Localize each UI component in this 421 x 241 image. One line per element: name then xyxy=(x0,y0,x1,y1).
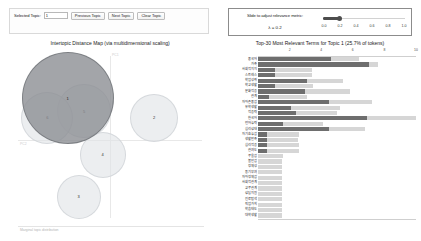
topic-bubble-label: 2 xyxy=(153,115,155,120)
intertopic-distance-map[interactable]: PC1 PC2 Marginal topic distribution 1562… xyxy=(12,50,208,234)
overall-frequency-bar xyxy=(258,192,282,196)
selected-topic-input[interactable] xyxy=(44,12,68,19)
overall-frequency-bar xyxy=(258,165,282,169)
lambda-tick-0-8: 0.8 xyxy=(386,24,391,28)
bar-chart-rows: 중국어가족사회적지지스트레스학업성취학교생활문화적응관계자아존중감유학생활적응력… xyxy=(218,57,418,219)
term-label: 스트레스 xyxy=(245,73,257,78)
topic-frequency-bar xyxy=(258,95,269,99)
overall-frequency-bar xyxy=(258,170,282,174)
term-row[interactable]: 대학생활 xyxy=(218,213,418,218)
overall-frequency-bar xyxy=(258,208,282,212)
next-topic-button[interactable]: Next Topic xyxy=(108,12,135,20)
bar-chart-tick-6: 6 xyxy=(352,48,354,52)
bar-chart-bottom-line xyxy=(258,219,416,220)
topic-frequency-bar xyxy=(258,143,267,147)
lambda-value-label: λ = 0.2 xyxy=(233,25,317,30)
topic-bubble-label: 3 xyxy=(78,194,80,199)
lambda-slider[interactable]: 0.00.20.40.60.81.0 xyxy=(321,15,407,33)
topic-frequency-bar xyxy=(258,132,267,136)
lambda-tick-0-6: 0.6 xyxy=(370,24,375,28)
lambda-tick-1-0: 1.0 xyxy=(402,24,407,28)
topic-frequency-bar xyxy=(258,122,283,126)
bar-chart-tick-10: 10 xyxy=(414,48,418,52)
term-label: 적응력 xyxy=(248,110,257,115)
term-label: 사회적관계 xyxy=(242,180,257,185)
overall-frequency-bar xyxy=(258,181,282,185)
topic-frequency-bar xyxy=(258,149,267,153)
topic-frequency-bar xyxy=(258,111,296,115)
overall-frequency-bar xyxy=(258,197,282,201)
lambda-tick-0-4: 0.4 xyxy=(354,24,359,28)
topic-frequency-bar xyxy=(258,89,305,93)
term-label: 중국어 xyxy=(248,57,257,62)
bar-chart-tick-4: 4 xyxy=(320,48,322,52)
overall-frequency-bar xyxy=(258,176,282,180)
relevance-metric-panel: Slide to adjust relevance metric: λ = 0.… xyxy=(228,8,412,36)
lambda-tick-0-0: 0.0 xyxy=(322,24,327,28)
topic-frequency-bar xyxy=(258,100,329,104)
term-label: 생활만족 xyxy=(245,137,257,142)
term-label: 진로탐색 xyxy=(245,197,257,202)
top-terms-title: Top-30 Most Relevant Terms for Topic 1 (… xyxy=(222,40,418,46)
topic-frequency-bar xyxy=(258,68,275,72)
term-label: 심리상태 xyxy=(245,127,257,132)
topic-bubble-label: 1 xyxy=(67,96,69,101)
term-label: 관계 xyxy=(251,94,257,99)
relevance-metric-text: Slide to adjust relevance metric: λ = 0.… xyxy=(233,13,317,30)
overall-frequency-bar xyxy=(258,186,282,190)
topic-frequency-bar xyxy=(258,62,369,66)
topic-frequency-bar xyxy=(258,84,275,88)
overall-frequency-bar xyxy=(258,159,282,163)
lambda-slider-handle[interactable] xyxy=(337,16,342,21)
topic-frequency-bar xyxy=(258,73,275,77)
marginal-topic-distribution-label: Marginal topic distribution xyxy=(20,228,58,232)
previous-topic-button[interactable]: Previous Topic xyxy=(71,12,105,20)
lambda-tick-0-2: 0.2 xyxy=(338,24,343,28)
term-label: 상담지원 xyxy=(245,191,257,196)
bar-chart-tick-2: 2 xyxy=(289,48,291,52)
map-legend-divider xyxy=(18,226,204,227)
topic-control-bar: Selected Topic: Previous Topic Next Topi… xyxy=(9,8,209,34)
term-label: 대학생활 xyxy=(245,213,257,218)
term-label: 자아존중감 xyxy=(242,100,257,105)
overall-frequency-bar xyxy=(258,213,282,217)
term-label: 우울감 xyxy=(248,154,257,159)
bar-chart-tick-8: 8 xyxy=(383,48,385,52)
overall-frequency-bar xyxy=(258,203,282,207)
topic-bubble-label: 4 xyxy=(102,152,104,157)
pc2-axis-label: PC2 xyxy=(20,142,27,146)
topic-bubble-3[interactable]: 3 xyxy=(57,175,101,219)
term-label: 정체성 xyxy=(248,164,257,169)
clear-topic-button[interactable]: Clear Topic xyxy=(137,12,165,20)
topic-frequency-bar xyxy=(258,106,291,110)
term-label: 학교생활 xyxy=(245,83,257,88)
topic-frequency-bar xyxy=(258,127,329,131)
intertopic-map-title: Intertopic Distance Map (via multidimens… xyxy=(10,40,210,46)
term-label: 학습태도 xyxy=(245,207,257,212)
ldavis-app: Selected Topic: Previous Topic Next Topi… xyxy=(0,0,421,241)
term-label: 언어능력 xyxy=(245,121,257,126)
topic-frequency-bar xyxy=(258,116,367,120)
top-terms-bar-chart: 246810 중국어가족사회적지지스트레스학업성취학교생활문화적응관계자아존중감… xyxy=(218,48,418,236)
lambda-slider-ticks: 0.00.20.40.60.81.0 xyxy=(321,24,407,32)
topic-bubble-1[interactable]: 1 xyxy=(22,52,114,144)
topic-frequency-bar xyxy=(258,79,307,83)
term-label: 관여도 xyxy=(248,148,257,153)
selected-topic-label: Selected Topic: xyxy=(14,13,41,18)
pc1-axis-label: PC1 xyxy=(112,53,119,57)
overall-frequency-bar xyxy=(258,154,283,158)
term-label: 사회적지지 xyxy=(242,67,257,72)
relevance-metric-caption: Slide to adjust relevance metric: xyxy=(233,13,317,18)
topic-frequency-bar xyxy=(258,57,331,61)
topic-frequency-bar xyxy=(258,138,267,142)
topic-bubble-2[interactable]: 2 xyxy=(130,94,178,142)
